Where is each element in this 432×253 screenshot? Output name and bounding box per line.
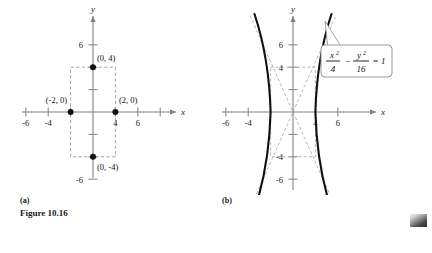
axis-group-b (222, 16, 376, 190)
x-tick-label-minus6: -6 (22, 118, 29, 128)
point-vertex-right (112, 109, 118, 115)
x-tick-label-6: 6 (336, 118, 340, 128)
equation-exponent-2: 2 (363, 50, 366, 56)
figure-caption: Figure 10.16 (20, 208, 68, 218)
x-tick-label-4: 4 (113, 118, 118, 128)
x-axis-label: x (380, 107, 385, 117)
panel-label-a: (a) (20, 196, 30, 205)
y-tick-label-minus6: -6 (76, 175, 83, 185)
x-axis-arrow (370, 109, 376, 114)
y-axis-arrow (290, 16, 295, 22)
x-tick-label-minus4: -4 (245, 118, 253, 128)
panel-b: -6 -4 4 6 6 4 -4 -6 x y x 2 4 − y 2 16 (216, 0, 432, 253)
point-label-co-vertex-bottom: (0, -4) (97, 162, 118, 172)
equation-operator-minus: − (345, 56, 351, 66)
equation-exponent-1: 2 (336, 50, 339, 56)
y-tick-label-6: 6 (79, 40, 83, 50)
equation-denominator-4: 4 (331, 64, 336, 74)
x-tick-label-6: 6 (136, 118, 140, 128)
point-co-vertex-bottom (90, 154, 96, 160)
equation-numerator-x: x (329, 50, 334, 60)
equation-numerator-y: y (356, 50, 361, 60)
panel-b-plot: -6 -4 4 6 6 4 -4 -6 x y x 2 4 − y 2 16 (216, 0, 432, 195)
point-label-co-vertex-top: (0, 4) (97, 53, 116, 63)
y-tick-label-minus6: -6 (276, 175, 283, 185)
equation-denominator-16: 16 (357, 64, 367, 74)
y-axis-label: y (90, 4, 95, 14)
figure-10-16: -6 -4 4 6 6 -6 x y (0, 4) (-2, 0) (2, 0)… (0, 0, 432, 253)
callout-pointer (325, 21, 342, 48)
point-co-vertex-top (90, 64, 96, 70)
x-tick-label-minus4: -4 (45, 118, 53, 128)
x-axis-label: x (180, 107, 185, 117)
equation-equals-one: = 1 (373, 56, 386, 66)
x-tick-label-minus6: -6 (222, 118, 229, 128)
y-tick-label-6: 6 (279, 40, 283, 50)
point-label-vertex-left: (-2, 0) (46, 95, 67, 105)
panel-a-plot: -6 -4 4 6 6 -6 x y (0, 4) (-2, 0) (2, 0)… (0, 0, 216, 190)
corner-gradient-mark (410, 214, 427, 227)
y-tick-label-minus4: -4 (276, 152, 284, 162)
panel-label-b: (b) (222, 196, 232, 205)
point-vertex-left (68, 109, 74, 115)
x-tick-label-4: 4 (313, 118, 318, 128)
y-axis-label: y (290, 4, 295, 14)
x-axis-arrow (170, 109, 176, 114)
y-axis-arrow (90, 16, 95, 22)
point-label-vertex-right: (2, 0) (119, 95, 138, 105)
